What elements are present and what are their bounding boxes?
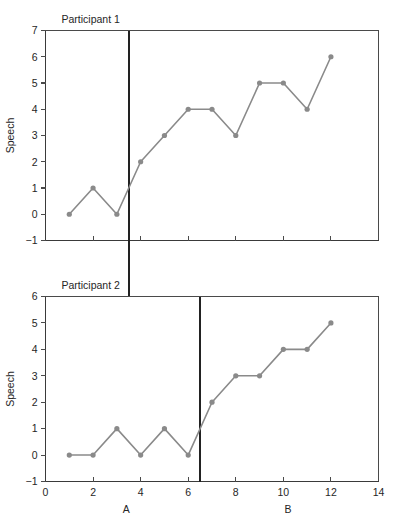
data-point xyxy=(281,80,286,85)
data-point xyxy=(114,426,119,431)
y-tick-label: 2 xyxy=(32,396,38,408)
data-point xyxy=(209,107,214,112)
panel-frame xyxy=(46,297,379,482)
y-axis-label: Speech xyxy=(4,371,16,407)
y-tick-label: 7 xyxy=(32,24,38,36)
data-point xyxy=(305,347,310,352)
phase-label-a: A xyxy=(123,503,130,515)
y-tick-label: 0 xyxy=(32,208,38,220)
y-tick-label: 2 xyxy=(32,156,38,168)
x-tick-label: 0 xyxy=(43,486,49,498)
data-point xyxy=(67,212,72,217)
data-point xyxy=(209,400,214,405)
y-tick-label: 3 xyxy=(32,129,38,141)
y-tick-label: 1 xyxy=(32,422,38,434)
data-point xyxy=(305,107,310,112)
x-tick-label: 4 xyxy=(138,486,144,498)
y-tick-label: 3 xyxy=(32,370,38,382)
y-tick-label: −1 xyxy=(26,475,38,487)
multiple-baseline-figure: −101234567Participant 1Speech−1012345602… xyxy=(0,0,399,529)
data-point xyxy=(328,54,333,59)
x-tick-label: 14 xyxy=(373,486,385,498)
data-point xyxy=(186,107,191,112)
data-point xyxy=(328,320,333,325)
y-tick-label: 5 xyxy=(32,77,38,89)
x-tick-label: 8 xyxy=(233,486,239,498)
x-tick-label: 10 xyxy=(278,486,290,498)
data-point xyxy=(257,373,262,378)
data-point xyxy=(138,159,143,164)
data-point xyxy=(162,426,167,431)
y-tick-label: 0 xyxy=(32,449,38,461)
phase-label-b: B xyxy=(285,503,292,515)
y-tick-label: 6 xyxy=(32,51,38,63)
y-tick-label: 4 xyxy=(32,343,38,355)
y-axis-label: Speech xyxy=(4,118,16,154)
data-point xyxy=(90,452,95,457)
data-point xyxy=(90,185,95,190)
panel-title: Participant 1 xyxy=(62,13,121,25)
x-tick-label: 12 xyxy=(325,486,337,498)
data-line xyxy=(69,57,331,215)
chart-canvas: −101234567Participant 1Speech−1012345602… xyxy=(0,0,399,529)
data-point xyxy=(186,452,191,457)
data-point xyxy=(233,133,238,138)
y-tick-label: 4 xyxy=(32,103,38,115)
panel-1: −101234567Participant 1Speech xyxy=(4,13,379,297)
x-tick-label: 2 xyxy=(90,486,96,498)
x-tick-label: 6 xyxy=(185,486,191,498)
panel-title: Participant 2 xyxy=(62,279,121,291)
y-tick-label: −1 xyxy=(26,234,38,246)
y-tick-label: 1 xyxy=(32,182,38,194)
data-point xyxy=(281,347,286,352)
data-point xyxy=(114,212,119,217)
data-point xyxy=(67,452,72,457)
data-point xyxy=(257,80,262,85)
panel-2: −1012345602468101214Participant 2Speech xyxy=(4,279,384,498)
y-tick-label: 6 xyxy=(32,290,38,302)
y-tick-label: 5 xyxy=(32,317,38,329)
data-point xyxy=(233,373,238,378)
data-point xyxy=(138,452,143,457)
data-point xyxy=(162,133,167,138)
